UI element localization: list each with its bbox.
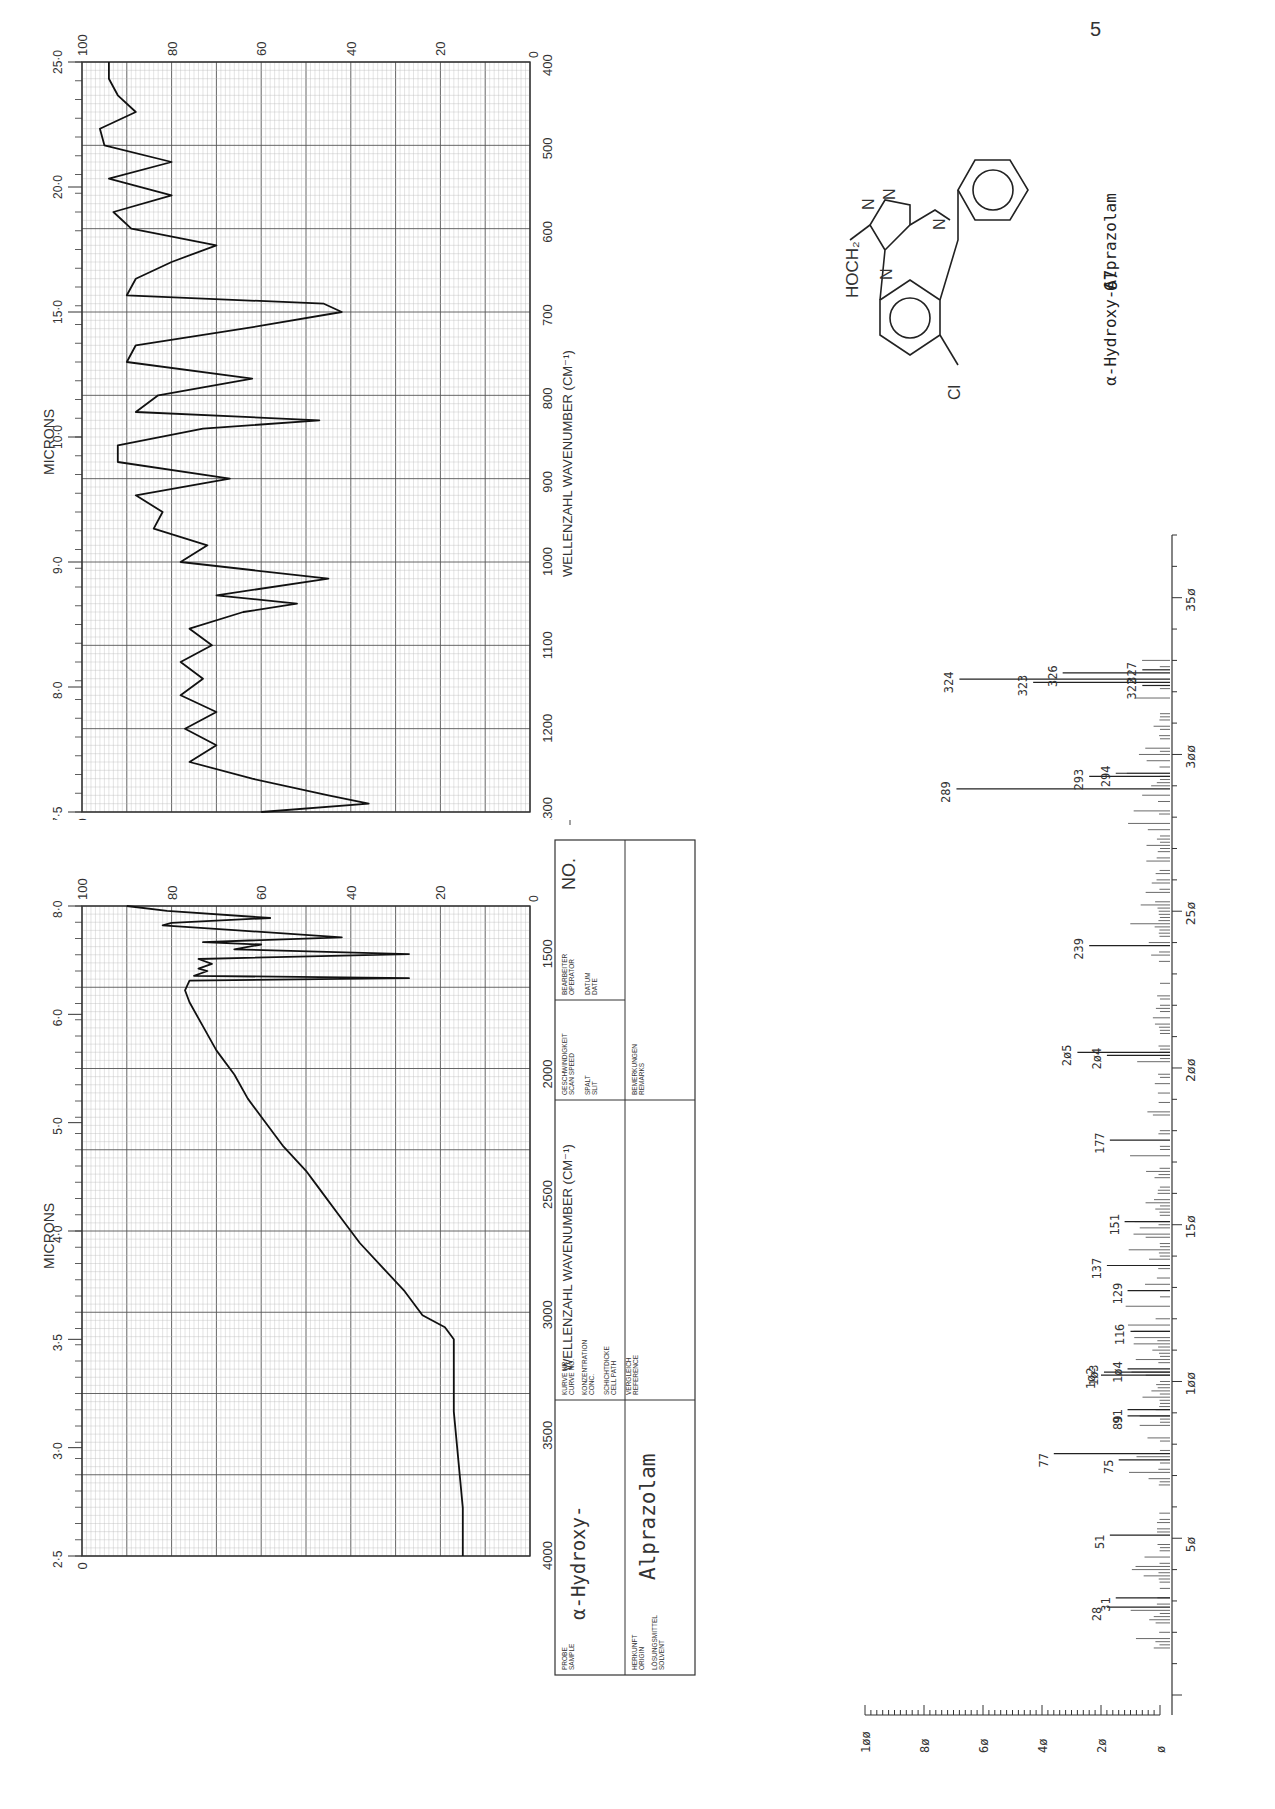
svg-text:31: 31 [1099, 1597, 1113, 1611]
svg-text:WELLENZAHL WAVENUMBER (CM⁻¹): WELLENZAHL WAVENUMBER (CM⁻¹) [560, 350, 575, 577]
svg-text:Cl: Cl [946, 385, 963, 400]
svg-text:9·0: 9·0 [51, 556, 65, 574]
svg-text:KURVE NR.: KURVE NR. [561, 1360, 568, 1395]
svg-text:100: 100 [75, 878, 90, 900]
svg-text:900: 900 [540, 471, 555, 493]
svg-text:4ø: 4ø [1036, 1739, 1050, 1753]
svg-text:MICRONS: MICRONS [41, 409, 57, 475]
svg-text:1øø: 1øø [859, 1731, 873, 1753]
svg-text:40: 40 [344, 886, 359, 900]
svg-text:0: 0 [527, 895, 541, 902]
svg-text:60: 60 [254, 886, 269, 900]
svg-text:0: 0 [527, 51, 541, 58]
svg-text:8·0: 8·0 [51, 900, 65, 918]
svg-text:327: 327 [1125, 662, 1139, 684]
svg-text:8ø: 8ø [918, 1739, 932, 1753]
svg-text:80: 80 [165, 886, 180, 900]
compound-label-block: α-Hydroxy-Alprazolam 67 [1060, 160, 1180, 420]
svg-text:CURVE NO.: CURVE NO. [568, 1359, 575, 1395]
svg-text:400: 400 [540, 54, 555, 76]
svg-text:116: 116 [1114, 1324, 1128, 1346]
svg-text:6·0: 6·0 [51, 1009, 65, 1027]
svg-text:α-Hydroxy-: α-Hydroxy- [567, 1506, 589, 1620]
svg-text:N: N [878, 268, 895, 280]
svg-text:15·0: 15·0 [51, 300, 65, 324]
svg-text:SPALT: SPALT [584, 1075, 591, 1095]
svg-text:129: 129 [1111, 1283, 1125, 1305]
svg-text:137: 137 [1090, 1258, 1104, 1280]
svg-text:ORIGIN: ORIGIN [638, 1647, 645, 1670]
svg-text:DATUM: DATUM [584, 972, 591, 995]
svg-text:151: 151 [1108, 1214, 1122, 1236]
svg-text:CONC.: CONC. [588, 1374, 595, 1395]
svg-text:289: 289 [939, 781, 953, 803]
svg-text:15ø: 15ø [1183, 1215, 1198, 1239]
svg-text:91: 91 [1111, 1409, 1125, 1423]
svg-text:293: 293 [1072, 769, 1086, 791]
mass-spectrum-chart: ø2ø4ø6ø8ø1øø5ø1øø15ø2øø25ø3øø35ø28315175… [700, 500, 1275, 1809]
svg-text:3øø: 3øø [1183, 745, 1198, 769]
svg-text:40: 40 [344, 42, 359, 56]
svg-text:20·0: 20·0 [51, 175, 65, 199]
svg-text:700: 700 [540, 304, 555, 326]
svg-text:6ø: 6ø [977, 1739, 991, 1753]
svg-text:323: 323 [1016, 675, 1030, 697]
svg-text:35ø: 35ø [1183, 588, 1198, 612]
svg-text:1ø4: 1ø4 [1111, 1361, 1125, 1383]
svg-text:324: 324 [942, 672, 956, 694]
svg-text:51: 51 [1093, 1535, 1107, 1549]
svg-text:CELL PATH: CELL PATH [610, 1360, 617, 1395]
ir-chart-high-wavenumber: 2020404060608080100100040003500300025002… [0, 810, 600, 1570]
svg-text:SLIT: SLIT [591, 1081, 598, 1095]
svg-text:1200: 1200 [540, 714, 555, 743]
svg-text:177: 177 [1093, 1132, 1107, 1154]
svg-text:100: 100 [75, 34, 90, 56]
svg-text:NO.: NO. [559, 858, 579, 890]
svg-text:SAMPLE: SAMPLE [568, 1643, 575, 1670]
ir-sample-form: NO.BEARBEITEROPERATORDATUMDATEGESCHWINDI… [545, 820, 705, 1780]
svg-text:REMARKS: REMARKS [638, 1062, 645, 1095]
svg-text:20: 20 [433, 886, 448, 900]
svg-text:BEMERKUNGEN: BEMERKUNGEN [631, 1044, 638, 1095]
svg-text:PROBE: PROBE [561, 1647, 568, 1670]
svg-text:75: 75 [1102, 1459, 1116, 1473]
svg-text:N: N [881, 188, 898, 200]
svg-text:MICRONS: MICRONS [41, 1203, 57, 1269]
svg-text:HOCH₂: HOCH₂ [843, 241, 862, 298]
ir-chart-low-wavenumber: 2020404060608080100100013001200110010009… [0, 0, 600, 820]
svg-text:326: 326 [1046, 665, 1060, 687]
svg-text:294: 294 [1099, 766, 1113, 788]
svg-text:REFERENCE: REFERENCE [632, 1354, 639, 1395]
page-number: 5 [1090, 18, 1101, 41]
svg-text:HERKUNFT: HERKUNFT [631, 1635, 638, 1670]
svg-text:77: 77 [1037, 1453, 1051, 1467]
svg-text:1øø: 1øø [1183, 1372, 1198, 1396]
svg-text:LÖSUNGSMITTEL: LÖSUNGSMITTEL [651, 1615, 658, 1670]
svg-text:5·0: 5·0 [51, 1117, 65, 1135]
svg-text:3·5: 3·5 [51, 1334, 65, 1352]
svg-text:600: 600 [540, 221, 555, 243]
svg-text:N: N [931, 218, 948, 230]
svg-text:80: 80 [165, 42, 180, 56]
svg-text:SOLVENT: SOLVENT [658, 1640, 665, 1670]
svg-text:SCHICHTDICKE: SCHICHTDICKE [603, 1346, 610, 1395]
svg-text:5ø: 5ø [1183, 1536, 1198, 1552]
svg-text:1100: 1100 [540, 631, 555, 659]
svg-text:GESCHWINDIGKEIT: GESCHWINDIGKEIT [561, 1033, 568, 1095]
svg-text:2ø4: 2ø4 [1090, 1048, 1104, 1070]
svg-text:VERGLEICH: VERGLEICH [625, 1357, 632, 1395]
svg-text:N: N [860, 198, 877, 210]
svg-text:25·0: 25·0 [51, 50, 65, 74]
svg-text:60: 60 [254, 42, 269, 56]
svg-text:25ø: 25ø [1183, 902, 1198, 926]
svg-text:BEARBEITER: BEARBEITER [561, 954, 568, 995]
svg-text:SCAN SPEED: SCAN SPEED [568, 1053, 575, 1095]
svg-text:500: 500 [540, 138, 555, 160]
svg-text:3·0: 3·0 [51, 1442, 65, 1460]
svg-text:2ø5: 2ø5 [1060, 1045, 1074, 1067]
svg-text:100: 100 [75, 1562, 90, 1570]
svg-text:OPERATOR: OPERATOR [568, 959, 575, 995]
compound-number: 67 [1100, 270, 1121, 292]
svg-text:8·0: 8·0 [51, 681, 65, 699]
svg-text:2·5: 2·5 [51, 1550, 65, 1568]
